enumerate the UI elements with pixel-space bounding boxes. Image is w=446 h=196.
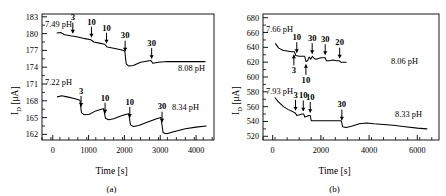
injection-label: 3 — [79, 86, 83, 96]
injection-arrowhead — [150, 55, 154, 58]
y-tick-label: 177 — [26, 46, 38, 55]
injection-arrowhead — [104, 40, 108, 43]
y-tick-label: 680 — [247, 14, 259, 23]
end-ph-label: 8.33 pH — [395, 110, 422, 119]
start-ph-label: 7.66 pH — [266, 25, 293, 34]
x-tick-label: 0 — [51, 146, 55, 155]
start-ph-label: 7.93 pH — [266, 87, 293, 96]
y-tick-label: 180 — [26, 30, 38, 39]
injection-label: 30 — [308, 33, 317, 43]
panel-b: ID [μA] 52054056058060062064066068002000… — [223, 0, 446, 196]
y-tick-label: 162 — [26, 130, 38, 139]
y-tick-label: 165 — [26, 114, 38, 123]
end-ph-label: 8.08 pH — [178, 64, 205, 73]
injection-label: 10 — [302, 75, 311, 85]
panel-a-caption: (a) — [0, 184, 223, 194]
start-ph-label: 7.22 pH — [45, 78, 72, 87]
injection-arrowhead — [79, 103, 83, 106]
figure-container: ID [μA] 16216516817117417718018301000200… — [0, 0, 446, 196]
injection-arrowhead — [103, 110, 107, 113]
injection-label: 3 — [292, 65, 296, 75]
injection-arrowhead — [308, 109, 312, 112]
injection-arrowhead — [295, 49, 299, 52]
data-trace — [57, 32, 205, 66]
x-tick-label: 4000 — [361, 146, 377, 155]
y-tick-label: 520 — [247, 132, 259, 141]
injection-arrowhead — [340, 117, 344, 120]
injection-label: 3 — [293, 90, 297, 100]
injection-label: 10 — [102, 23, 111, 33]
injection-arrowhead — [160, 119, 164, 122]
injection-label: 30 — [121, 30, 130, 40]
panel-a: ID [μA] 16216516817117417718018301000200… — [0, 0, 223, 196]
x-tick-label: 0 — [271, 146, 275, 155]
end-ph-label: 8.34 pH — [172, 103, 199, 112]
y-tick-label: 660 — [247, 29, 259, 38]
injection-label: 10 — [306, 92, 315, 102]
x-tick-label: 2000 — [116, 146, 132, 155]
injection-label: 30 — [338, 99, 347, 109]
injection-arrowhead — [304, 64, 308, 67]
x-tick-label: 6000 — [409, 146, 425, 155]
injection-label: 30 — [147, 38, 156, 48]
injection-arrowhead — [310, 50, 314, 53]
y-tick-label: 600 — [247, 73, 259, 82]
injection-arrowhead — [293, 107, 297, 110]
injection-label: 10 — [292, 32, 301, 42]
end-ph-label: 8.06 pH — [391, 57, 418, 66]
x-tick-label: 2000 — [313, 146, 329, 155]
y-tick-label: 620 — [247, 58, 259, 67]
injection-label: 10 — [101, 93, 110, 103]
start-ph-label: 7.49 pH — [45, 20, 72, 29]
injection-label: 20 — [335, 37, 344, 47]
injection-label: 10 — [125, 97, 134, 107]
y-tick-label: 580 — [247, 88, 259, 97]
y-tick-label: 560 — [247, 103, 259, 112]
panel-a-x-axis-title: Time [s] — [0, 166, 223, 176]
injection-arrowhead — [323, 51, 327, 54]
x-tick-label: 3000 — [152, 146, 168, 155]
injection-label: 10 — [87, 17, 96, 27]
y-tick-label: 640 — [247, 43, 259, 52]
y-tick-label: 171 — [26, 80, 38, 89]
injection-arrowhead — [89, 34, 93, 37]
x-tick-label: 1000 — [80, 146, 96, 155]
y-tick-label: 183 — [26, 13, 38, 22]
y-tick-label: 540 — [247, 117, 259, 126]
y-tick-label: 168 — [26, 97, 38, 106]
panel-b-x-axis-title: Time [s] — [223, 166, 446, 176]
injection-label: 30 — [158, 101, 167, 111]
injection-arrowhead — [128, 114, 132, 117]
x-tick-label: 4000 — [188, 146, 204, 155]
y-tick-label: 174 — [26, 63, 38, 72]
injection-label: 30 — [321, 34, 330, 44]
panel-b-caption: (b) — [223, 184, 446, 194]
injection-arrowhead — [71, 30, 75, 33]
injection-arrowhead — [338, 55, 342, 58]
injection-arrowhead — [301, 108, 305, 111]
